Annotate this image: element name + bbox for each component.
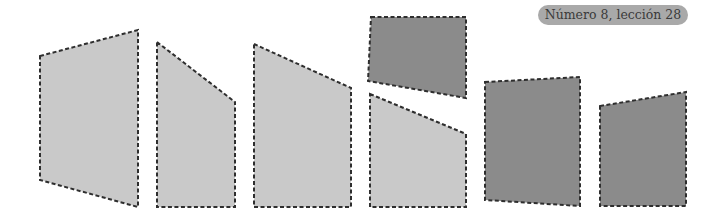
shapes-canvas <box>0 0 717 216</box>
shape-6-dark-quadrilateral <box>485 77 580 206</box>
shape-3-light-trapezoid <box>254 44 351 207</box>
shape-4-dark-quadrilateral <box>368 17 466 98</box>
shape-2-light-trapezoid <box>157 42 235 207</box>
shape-1-light-quadrilateral <box>40 30 138 207</box>
shape-7-dark-trapezoid <box>600 92 686 206</box>
shape-5-light-trapezoid <box>370 94 466 207</box>
